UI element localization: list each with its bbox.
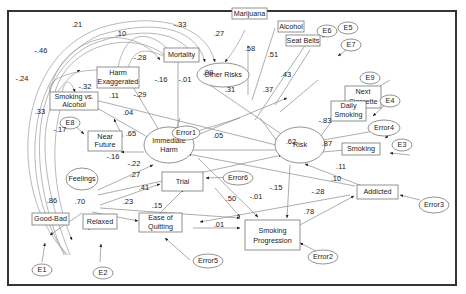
sem-diagram: Marijuana Alcohol Seat Belts Mortality H… <box>0 0 466 294</box>
svg-text:Error3: Error3 <box>424 200 444 209</box>
svg-text:Quitting: Quitting <box>148 222 173 231</box>
svg-text:.05: .05 <box>213 131 223 140</box>
svg-text:.31: .31 <box>225 85 235 94</box>
svg-text:-.33: -.33 <box>174 20 187 29</box>
svg-text:-.29: -.29 <box>134 90 147 99</box>
svg-text:.10: .10 <box>116 29 126 38</box>
svg-text:.50: .50 <box>226 194 236 203</box>
svg-text:.01: .01 <box>214 220 224 229</box>
svg-text:Feelings: Feelings <box>68 174 96 183</box>
svg-text:Alcohol: Alcohol <box>62 100 86 109</box>
svg-text:Smoking: Smoking <box>259 226 287 235</box>
svg-text:E3: E3 <box>398 140 407 149</box>
svg-text:.11: .11 <box>336 162 346 171</box>
svg-text:Smoking: Smoking <box>335 110 363 119</box>
svg-text:E7: E7 <box>347 40 356 49</box>
svg-text:E2: E2 <box>99 268 108 277</box>
svg-text:.86: .86 <box>47 196 57 205</box>
svg-text:.70: .70 <box>75 197 85 206</box>
svg-text:.37: .37 <box>263 85 273 94</box>
svg-text:-.28: -.28 <box>312 187 325 196</box>
svg-text:E8: E8 <box>66 118 75 127</box>
svg-text:.23: .23 <box>123 197 133 206</box>
svg-text:Ease of: Ease of <box>148 213 172 222</box>
svg-text:Error6: Error6 <box>228 173 248 182</box>
svg-text:E1: E1 <box>38 265 47 274</box>
svg-text:Relaxed: Relaxed <box>87 217 113 226</box>
svg-text:-.01: -.01 <box>179 75 192 84</box>
svg-text:Harm: Harm <box>160 145 178 154</box>
svg-text:.62: .62 <box>286 137 296 146</box>
svg-text:-.16: -.16 <box>107 152 120 161</box>
svg-text:Daily: Daily <box>341 101 357 110</box>
svg-text:-.16: -.16 <box>155 75 168 84</box>
svg-text:Smoking: Smoking <box>347 144 375 153</box>
svg-text:.27: .27 <box>214 29 224 38</box>
svg-text:Seat Belts: Seat Belts <box>287 36 320 45</box>
svg-text:Harm: Harm <box>109 68 127 77</box>
svg-text:E6: E6 <box>323 26 332 35</box>
svg-text:.11: .11 <box>109 91 119 100</box>
svg-text:.10: .10 <box>331 174 341 183</box>
svg-text:.04: .04 <box>123 108 133 117</box>
svg-text:.09: .09 <box>203 68 213 77</box>
svg-text:-.24: -.24 <box>16 74 29 83</box>
svg-text:Exaggerated: Exaggerated <box>98 77 139 86</box>
svg-text:.78: .78 <box>304 207 314 216</box>
svg-text:.58: .58 <box>245 44 255 53</box>
svg-text:-.01: -.01 <box>250 192 263 201</box>
svg-text:.27: .27 <box>130 170 140 179</box>
svg-text:-.22: -.22 <box>128 159 141 168</box>
svg-text:.41: .41 <box>139 183 149 192</box>
svg-text:.65: .65 <box>126 129 136 138</box>
svg-text:Alcohol: Alcohol <box>279 22 303 31</box>
svg-text:-.32: -.32 <box>79 82 92 91</box>
svg-text:E5: E5 <box>344 23 353 32</box>
svg-text:Marijuana: Marijuana <box>234 9 266 18</box>
svg-text:-.15: -.15 <box>270 183 283 192</box>
svg-text:E4: E4 <box>386 96 395 105</box>
svg-text:Mortality: Mortality <box>168 50 196 59</box>
svg-text:-.46: -.46 <box>35 46 48 55</box>
svg-text:-.28: -.28 <box>134 53 147 62</box>
svg-text:-.17: -.17 <box>54 125 67 134</box>
svg-text:Addicted: Addicted <box>364 187 392 196</box>
svg-text:.21: .21 <box>72 20 82 29</box>
svg-text:Error2: Error2 <box>313 252 333 261</box>
svg-text:Error5: Error5 <box>198 256 218 265</box>
svg-text:.15: .15 <box>152 201 162 210</box>
svg-text:E9: E9 <box>366 73 375 82</box>
svg-text:Error4: Error4 <box>374 123 394 132</box>
svg-text:-.83: -.83 <box>319 116 332 125</box>
svg-text:.33: .33 <box>35 107 45 116</box>
svg-text:.87: .87 <box>322 139 332 148</box>
svg-text:Next: Next <box>356 87 371 96</box>
svg-text:Trial: Trial <box>176 177 190 186</box>
svg-text:.51: .51 <box>268 50 278 59</box>
svg-text:Future: Future <box>95 140 116 149</box>
svg-text:Progression: Progression <box>253 236 291 245</box>
svg-text:.43: .43 <box>281 70 291 79</box>
svg-text:Good-Bad: Good-Bad <box>34 214 67 223</box>
svg-text:Error1: Error1 <box>176 128 196 137</box>
